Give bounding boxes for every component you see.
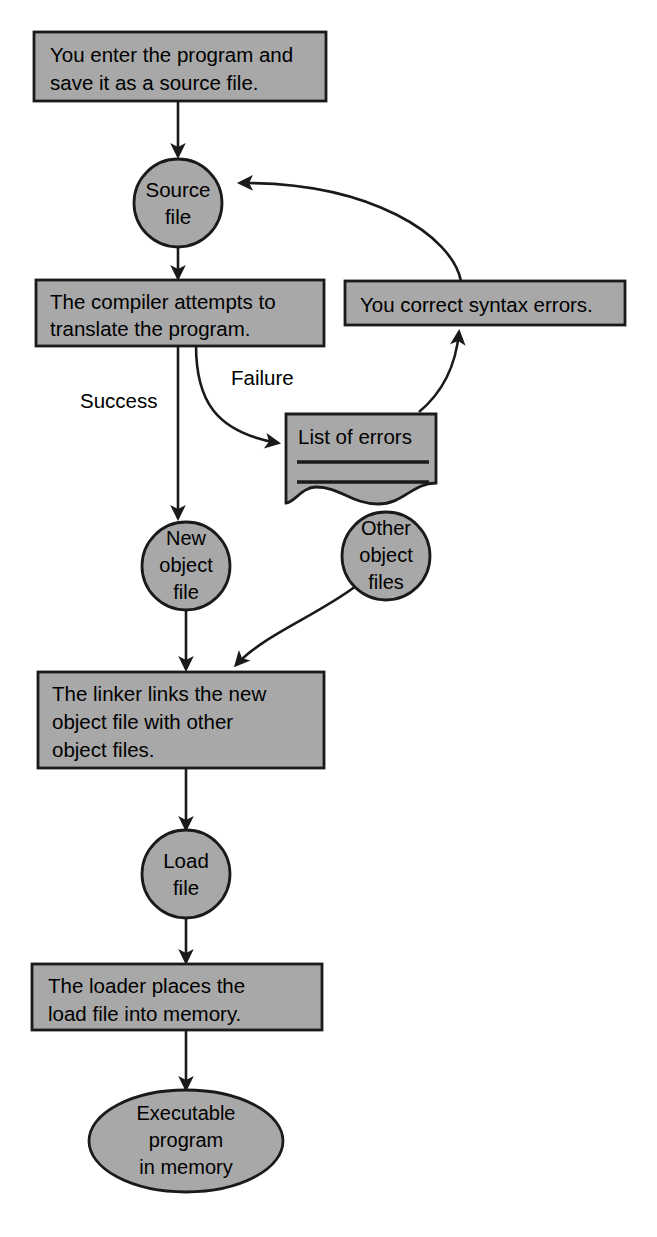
executable-program-line-1: Executable xyxy=(137,1102,236,1124)
flowchart-canvas: You enter the program and save it as a s… xyxy=(0,0,657,1237)
loader-line-2: load file into memory. xyxy=(48,1002,241,1025)
other-object-files-line-1: Other xyxy=(361,517,411,539)
other-object-files-line-3: files xyxy=(368,571,404,593)
compiler-line-1: The compiler attempts to xyxy=(50,290,276,313)
node-compiler: The compiler attempts to translate the p… xyxy=(36,280,324,346)
edge-correct-to-source xyxy=(240,183,461,281)
compiler-line-2: translate the program. xyxy=(50,317,251,340)
node-executable-program: Executable program in memory xyxy=(89,1090,283,1192)
node-enter-program: You enter the program and save it as a s… xyxy=(34,32,326,101)
source-file-line-1: Source xyxy=(146,178,211,201)
source-file-line-2: file xyxy=(165,205,191,228)
new-object-file-line-2: object xyxy=(159,554,213,576)
node-correct-errors: You correct syntax errors. xyxy=(345,281,625,325)
other-object-files-line-2: object xyxy=(359,544,413,566)
load-file-line-1: Load xyxy=(163,849,209,872)
load-file-line-2: file xyxy=(173,876,199,899)
load-file-circle xyxy=(142,830,230,918)
node-other-object-files: Other object files xyxy=(342,512,430,600)
node-source-file: Source file xyxy=(134,159,222,247)
executable-program-line-2: program xyxy=(149,1129,223,1151)
edge-otherobjects-to-linker xyxy=(236,586,356,665)
source-file-circle xyxy=(134,159,222,247)
flowchart-diagram: You enter the program and save it as a s… xyxy=(0,0,657,1237)
edge-compiler-failure xyxy=(196,345,278,443)
linker-line-3: object files. xyxy=(52,738,155,761)
edge-label-success: Success xyxy=(80,389,157,412)
edge-errors-to-correct xyxy=(419,332,459,412)
executable-program-line-3: in memory xyxy=(139,1156,232,1178)
node-list-of-errors: List of errors xyxy=(286,414,436,504)
node-load-file: Load file xyxy=(142,830,230,918)
node-linker: The linker links the new object file wit… xyxy=(38,672,324,768)
linker-line-1: The linker links the new xyxy=(52,682,266,705)
edge-label-failure: Failure xyxy=(231,366,294,389)
list-of-errors-label: List of errors xyxy=(298,425,412,448)
linker-line-2: object file with other xyxy=(52,710,233,733)
correct-errors-label: You correct syntax errors. xyxy=(360,293,593,316)
new-object-file-line-3: file xyxy=(173,581,199,603)
node-new-object-file: New object file xyxy=(142,522,230,610)
node-loader: The loader places the load file into mem… xyxy=(32,964,322,1030)
enter-program-line-2: save it as a source file. xyxy=(50,71,259,94)
loader-line-1: The loader places the xyxy=(48,974,245,997)
enter-program-line-1: You enter the program and xyxy=(50,43,293,66)
new-object-file-line-1: New xyxy=(166,527,207,549)
